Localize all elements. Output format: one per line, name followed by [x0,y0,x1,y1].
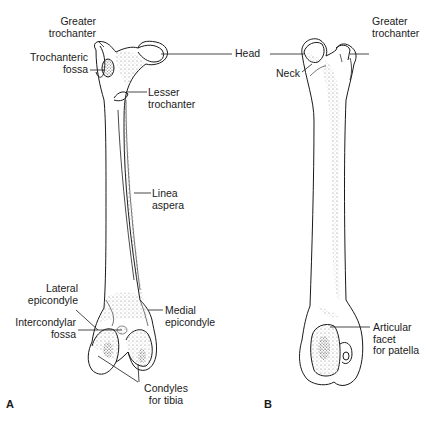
label-line: for patella [373,345,419,357]
label-greater-trochanter-b: Greater trochanter [372,16,419,39]
label-line: epicondyle [20,295,78,307]
label-line: epicondyle [165,317,215,329]
label-line: Lateral [20,283,78,295]
label-condyles-for-tibia: Condyles for tibia [136,383,196,406]
label-line: Linea [152,188,184,200]
femur-diagram: Greater trochanter Trochanteric fossa He… [0,0,443,422]
label-line: trochanter [372,28,419,40]
label-lesser-trochanter: Lesser trochanter [148,87,195,110]
label-greater-trochanter-a: Greater trochanter [44,16,96,39]
label-line: Head [235,47,260,59]
label-line: Articular [373,322,419,334]
label-line: Lesser [148,87,195,99]
panel-letter-a: A [6,398,14,410]
label-line: for tibia [136,395,196,407]
label-line: aspera [152,200,184,212]
femur-b [300,39,363,386]
label-head: Head [235,48,260,60]
label-line: Greater [44,16,96,28]
label-medial-epicondyle: Medial epicondyle [165,305,215,328]
label-linea-aspera: Linea aspera [152,188,184,211]
label-trochanteric-fossa: Trochanteric fossa [22,52,88,75]
label-line: trochanter [44,28,96,40]
label-line: Trochanteric [22,52,88,64]
label-line: fossa [22,64,88,76]
label-line: fossa [8,329,76,341]
panel-letter-b: B [264,398,272,410]
label-lateral-epicondyle: Lateral epicondyle [20,283,78,306]
label-line: Condyles [136,383,196,395]
label-line: Intercondylar [8,317,76,329]
label-line: Neck [276,67,300,79]
label-line: trochanter [148,99,195,111]
label-neck: Neck [276,68,300,80]
label-intercondylar-fossa: Intercondylar fossa [8,317,76,340]
label-articular-facet: Articular facet for patella [373,322,419,357]
label-line: Medial [165,305,215,317]
label-line: Greater [372,16,419,28]
